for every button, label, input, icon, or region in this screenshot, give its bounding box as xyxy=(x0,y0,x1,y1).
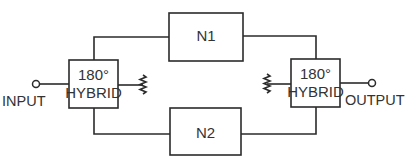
input-label: INPUT xyxy=(2,93,46,109)
right-hybrid-line2: HYBRID xyxy=(287,83,344,100)
output-label: OUTPUT xyxy=(345,92,405,108)
balanced-amplifier-diagram: 180° HYBRID 180° HYBRID N1 N2 INPUT OUTP… xyxy=(0,0,412,164)
n1-label: N1 xyxy=(196,27,215,44)
input-port-icon xyxy=(33,81,40,88)
left-hybrid-line2: HYBRID xyxy=(65,84,122,101)
wire-n1-to-right-hybrid xyxy=(243,36,316,59)
right-hybrid-block: 180° HYBRID xyxy=(287,59,344,107)
n1-block: N1 xyxy=(169,13,243,61)
left-hybrid-block: 180° HYBRID xyxy=(65,60,122,108)
n2-block: N2 xyxy=(170,108,241,155)
wire-left-hybrid-to-n2 xyxy=(94,108,170,134)
n2-label: N2 xyxy=(196,124,215,141)
wire-left-hybrid-to-n1 xyxy=(94,37,169,60)
output-port-icon xyxy=(369,80,376,87)
left-hybrid-line1: 180° xyxy=(78,66,109,83)
wire-n2-to-right-hybrid xyxy=(241,107,316,134)
right-hybrid-line1: 180° xyxy=(300,65,331,82)
